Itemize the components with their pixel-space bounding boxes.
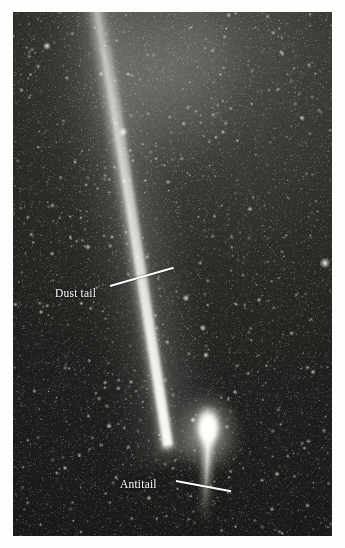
antitail-label: Antitail	[120, 478, 157, 490]
comet-photograph-figure: Dust tail Antitail	[0, 0, 345, 548]
dust-tail-label: Dust tail	[55, 287, 96, 299]
photographic-plate: Dust tail Antitail	[13, 12, 332, 536]
film-grain	[13, 12, 332, 536]
